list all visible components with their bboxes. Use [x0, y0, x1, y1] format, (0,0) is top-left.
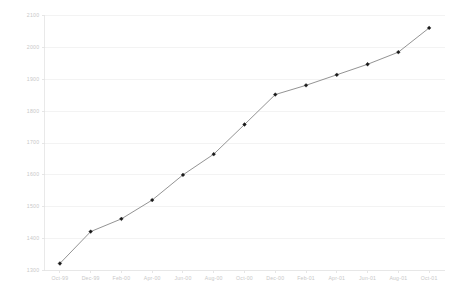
chart-plot-area: 210020001900180017001600150014001300 Oct… [0, 0, 465, 302]
x-axis-tick-label: Jun-00 [174, 275, 191, 281]
y-axis-tick-label: 1400 [27, 235, 40, 241]
x-axis-tick-label: Apr-00 [144, 275, 161, 281]
x-axis-tick-labels: Oct-99Dec-99Feb-00Apr-00Jun-00Aug-00Oct-… [51, 275, 437, 281]
data-point-marker [335, 73, 339, 77]
data-point-marker [366, 62, 370, 66]
y-axis-tick-label: 1700 [27, 139, 40, 145]
y-axis-tick-label: 2100 [27, 12, 40, 18]
axes-group [42, 16, 445, 274]
series-polyline [60, 28, 429, 264]
x-axis-tick-label: Feb-01 [297, 275, 315, 281]
x-axis-tick-label: Oct-01 [421, 275, 438, 281]
data-point-markers [58, 26, 431, 265]
x-axis-tick-label: Feb-00 [113, 275, 131, 281]
y-axis-tick-label: 2000 [27, 44, 40, 50]
y-axis-tick-labels: 210020001900180017001600150014001300 [27, 12, 40, 273]
y-axis-tick-label: 1800 [27, 108, 40, 114]
x-axis-tick-label: Aug-00 [205, 275, 223, 281]
gridlines-group [45, 16, 445, 271]
y-axis-tick-label: 1600 [27, 171, 40, 177]
x-axis-tick-label: Dec-00 [266, 275, 284, 281]
x-axis-tick-label: Dec-99 [82, 275, 100, 281]
y-axis-tick-label: 1500 [27, 203, 40, 209]
x-axis-tick-label: Aug-01 [389, 275, 407, 281]
x-axis-tick-label: Jun-01 [359, 275, 376, 281]
x-axis-tick-label: Apr-01 [328, 275, 345, 281]
y-axis-tick-label: 1900 [27, 76, 40, 82]
x-axis-tick-label: Oct-00 [236, 275, 253, 281]
data-series-line [60, 28, 429, 264]
data-point-marker [120, 217, 124, 221]
data-point-marker [304, 83, 308, 87]
x-axis-tick-label: Oct-99 [51, 275, 68, 281]
line-chart-container: 210020001900180017001600150014001300 Oct… [0, 0, 465, 302]
y-axis-tick-label: 1300 [27, 267, 40, 273]
